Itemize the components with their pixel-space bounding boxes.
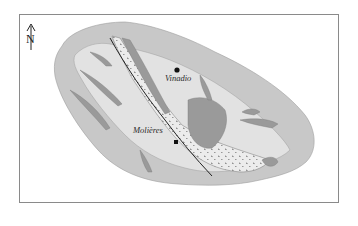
north-arrow-icon: N	[26, 24, 35, 50]
vinadio-label: Vinadio	[165, 73, 191, 83]
vinadio-point	[174, 67, 179, 72]
molieres-label: Molières	[132, 125, 164, 135]
geologic-map: Vinadio Molières N	[0, 0, 358, 226]
north-label: N	[26, 32, 35, 46]
molieres-point	[174, 140, 178, 144]
